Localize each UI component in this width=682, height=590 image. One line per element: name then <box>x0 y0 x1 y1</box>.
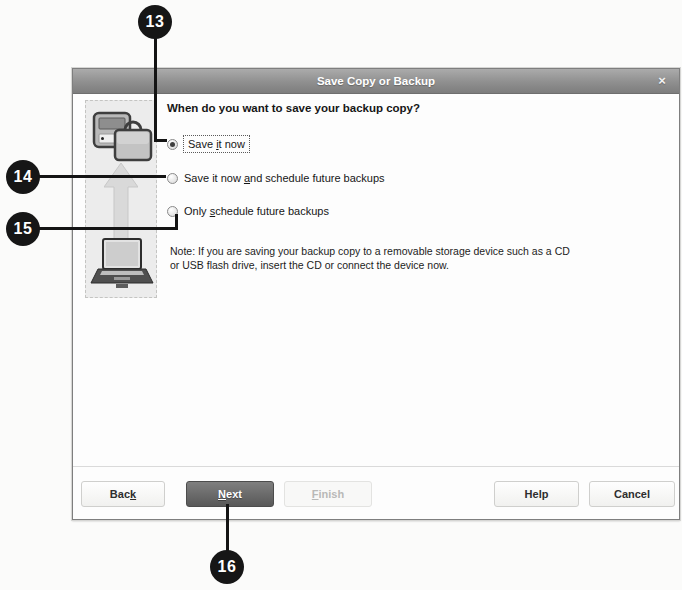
callout-16-line <box>226 504 229 552</box>
label-text: Only <box>184 205 210 217</box>
callout-badge-15: 15 <box>6 212 40 246</box>
label-text: chedule future backups <box>215 205 329 217</box>
dialog-titlebar[interactable]: Save Copy or Backup × <box>73 69 679 94</box>
backup-device-and-briefcase-icon <box>91 108 153 172</box>
callout-badge-14: 14 <box>6 160 40 194</box>
callout-15-line <box>38 227 178 230</box>
note-line-1: Note: If you are saving your backup copy… <box>170 245 640 259</box>
save-and-schedule-option[interactable]: Save it now and schedule future backups <box>167 167 385 189</box>
back-button[interactable]: Back <box>81 481 165 507</box>
save-and-schedule-label: Save it now and schedule future backups <box>184 172 385 184</box>
label-text: t now <box>219 138 245 150</box>
dialog-title: Save Copy or Backup <box>317 75 435 87</box>
callout-14-line <box>38 175 166 178</box>
label-text: Save <box>188 138 216 150</box>
save-it-now-radio[interactable] <box>167 139 178 150</box>
callout-15-line-elbow <box>175 214 178 230</box>
only-schedule-option[interactable]: Only schedule future backups <box>167 200 329 222</box>
save-it-now-label: Save it now <box>184 136 249 152</box>
button-text: Help <box>525 488 549 500</box>
removable-storage-note: Note: If you are saving your backup copy… <box>170 245 640 272</box>
callout-badge-14-number: 14 <box>14 168 33 186</box>
callout-13-line-elbow <box>154 139 167 142</box>
finish-button: Finish <box>284 481 372 507</box>
callout-badge-13-number: 13 <box>146 13 165 31</box>
only-schedule-label: Only schedule future backups <box>184 205 329 217</box>
note-line-2: or USB flash drive, insert the CD or con… <box>170 259 640 273</box>
button-mnemonic: N <box>218 488 226 500</box>
save-and-schedule-radio[interactable] <box>167 173 178 184</box>
help-button[interactable]: Help <box>494 481 579 507</box>
cancel-button[interactable]: Cancel <box>589 481 675 507</box>
button-text: inish <box>319 488 345 500</box>
callout-badge-13: 13 <box>138 5 172 39</box>
dialog-heading: When do you want to save your backup cop… <box>167 102 420 114</box>
button-mnemonic: F <box>312 488 319 500</box>
next-button[interactable]: Next <box>186 481 274 507</box>
button-text: Bac <box>110 488 130 500</box>
wizard-illustration-panel <box>85 100 157 298</box>
callout-badge-16: 16 <box>210 550 244 584</box>
label-text: nd schedule future backups <box>250 172 385 184</box>
save-it-now-option[interactable]: Save it now <box>167 133 249 155</box>
save-copy-or-backup-dialog: Save Copy or Backup × <box>72 68 680 520</box>
button-text: Cancel <box>614 488 650 500</box>
close-icon[interactable]: × <box>654 73 670 89</box>
label-text: Save it now <box>184 172 244 184</box>
button-mnemonic: k <box>130 488 136 500</box>
footer-divider <box>73 466 679 467</box>
button-text: ext <box>226 488 242 500</box>
callout-badge-16-number: 16 <box>218 558 237 576</box>
callout-badge-15-number: 15 <box>14 220 33 238</box>
callout-13-line-vertical <box>154 36 157 142</box>
laptop-icon <box>90 238 154 294</box>
